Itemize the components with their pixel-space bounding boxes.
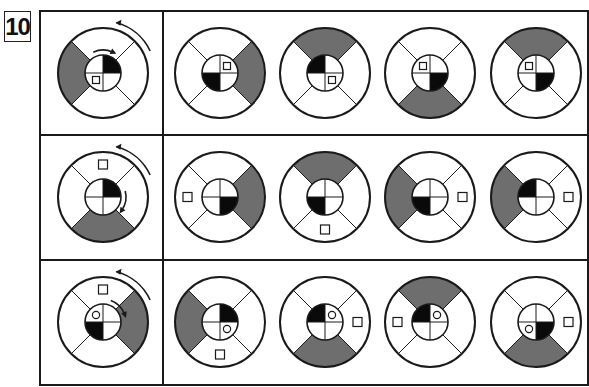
- square-marker-icon: [329, 77, 336, 84]
- square-marker-icon: [419, 62, 426, 69]
- option-wheel-row-1-2[interactable]: [280, 28, 370, 118]
- puzzle-grid: [0, 0, 589, 387]
- option-wheel-row-2-1[interactable]: [175, 152, 265, 242]
- square-marker-icon: [393, 318, 402, 327]
- circle-marker-icon: [433, 311, 440, 318]
- circle-marker-icon: [525, 325, 532, 332]
- option-wheel-row-1-1[interactable]: [175, 28, 265, 118]
- option-wheel-row-1-3[interactable]: [385, 28, 475, 118]
- square-marker-icon: [564, 193, 573, 202]
- square-marker-icon: [99, 160, 108, 169]
- circle-marker-icon: [328, 311, 335, 318]
- square-marker-icon: [525, 62, 532, 69]
- reference-wheel-row-3: [58, 269, 150, 367]
- option-wheel-row-2-4[interactable]: [491, 152, 581, 242]
- reference-wheel-row-2: [58, 144, 150, 242]
- square-marker-icon: [564, 318, 573, 327]
- option-wheel-row-3-1[interactable]: [175, 277, 265, 367]
- option-wheel-row-3-3[interactable]: [385, 277, 475, 367]
- square-marker-icon: [183, 193, 192, 202]
- square-marker-icon: [321, 225, 330, 234]
- square-marker-icon: [224, 62, 231, 69]
- square-marker-icon: [216, 350, 225, 359]
- square-marker-icon: [92, 77, 99, 84]
- reference-wheel-row-1: [58, 20, 150, 118]
- option-wheel-row-3-2[interactable]: [280, 277, 370, 367]
- option-wheel-row-3-4[interactable]: [491, 277, 581, 367]
- circle-marker-icon: [223, 325, 230, 332]
- option-wheel-row-2-2[interactable]: [280, 152, 370, 242]
- option-wheel-row-1-4[interactable]: [491, 28, 581, 118]
- square-marker-icon: [99, 285, 108, 294]
- square-marker-icon: [353, 318, 362, 327]
- square-marker-icon: [458, 193, 467, 202]
- circle-marker-icon: [92, 311, 99, 318]
- option-wheel-row-2-3[interactable]: [385, 152, 475, 242]
